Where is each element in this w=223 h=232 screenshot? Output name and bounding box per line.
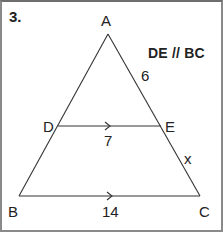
vertex-label-e: E bbox=[165, 119, 175, 134]
measure-ec: x bbox=[184, 151, 192, 166]
measure-de: 7 bbox=[104, 133, 112, 148]
vertex-label-b: B bbox=[8, 204, 18, 219]
measure-bc: 14 bbox=[102, 204, 119, 219]
side-ab bbox=[19, 34, 108, 196]
measure-ae: 6 bbox=[141, 68, 149, 83]
vertex-label-c: C bbox=[199, 204, 210, 219]
vertex-label-a: A bbox=[101, 13, 111, 28]
vertex-label-d: D bbox=[43, 119, 54, 134]
triangle-diagram bbox=[0, 0, 223, 232]
side-ac bbox=[108, 34, 200, 196]
